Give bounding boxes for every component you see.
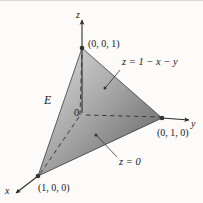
- axis-y: [162, 118, 189, 120]
- axis-label-z: z: [76, 10, 80, 20]
- vertex-dot-right: [160, 116, 165, 121]
- axis-label-y: y: [191, 119, 195, 129]
- axis-x: [16, 176, 38, 193]
- vertex-dot-apex: [80, 46, 85, 51]
- vertex-label-1-0-0: (1, 0, 0): [38, 183, 70, 193]
- vertex-dot-front: [36, 174, 41, 179]
- diagram-canvas: [0, 0, 203, 203]
- vertex-label-0-1-0: (0, 1, 0): [157, 128, 189, 138]
- equation-label-slant-plane: z = 1 − x − y: [122, 57, 178, 68]
- tetrahedron-figure: z y x 0 (0, 0, 1) (0, 1, 0) (1, 0, 0) E …: [0, 0, 203, 203]
- leader-dot-base-plane: [95, 134, 98, 137]
- leader-dot-slant-plane: [104, 87, 107, 90]
- vertex-label-0-0-1: (0, 0, 1): [88, 39, 120, 49]
- origin-label: 0: [74, 108, 79, 119]
- equation-label-base-plane: z = 0: [119, 157, 141, 168]
- axis-label-x: x: [5, 186, 9, 196]
- region-label-E: E: [44, 94, 51, 106]
